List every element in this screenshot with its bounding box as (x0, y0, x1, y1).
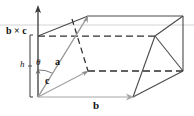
vector-c-label: c (45, 76, 49, 86)
angle-label: θ (36, 58, 40, 67)
normal-vector-label: b × c (6, 26, 27, 36)
dashed-back-left-edge (72, 19, 88, 71)
height-label: h (20, 60, 25, 69)
top-face-right-edge (155, 16, 183, 36)
right-face-back-edge (155, 36, 183, 71)
vector-a-label: a (55, 57, 60, 67)
vector-b-label: b (93, 100, 99, 111)
angle-arc (38, 70, 52, 73)
top-face-left-edge (38, 16, 88, 36)
